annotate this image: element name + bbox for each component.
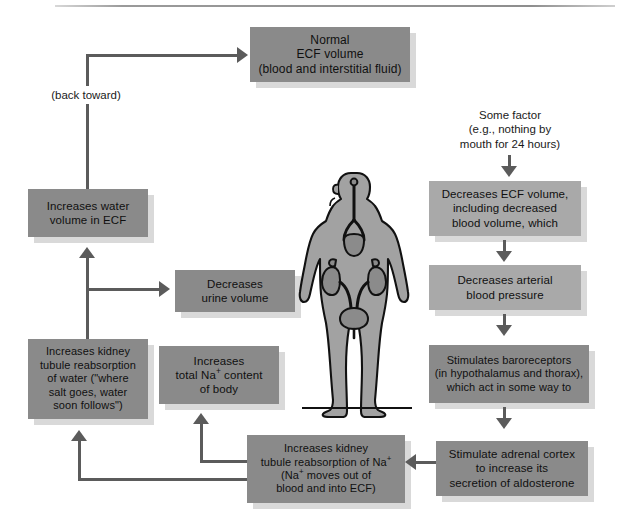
total-na-line-2: total Na+ content xyxy=(175,369,262,381)
node-increases-kidney-tubule-reabsorption-of-water[interactable]: Increases kidney tubule reabsorption of … xyxy=(28,339,148,419)
connector-branch-to-urine-volume xyxy=(86,288,160,291)
arrowhead-na-to-water-reabsorption xyxy=(71,430,87,441)
arrowhead-na-to-total-na xyxy=(193,413,209,424)
node-some-factor: Some factor (e.g., nothing by mouth for … xyxy=(430,108,590,151)
node-water-volume-in-ecf-label: Increases water volume in ECF xyxy=(33,199,143,227)
node-decreases-arterial-blood-pressure[interactable]: Decreases arterial blood pressure xyxy=(429,265,581,310)
node-na-reabsorption-label: Increases kidney tubule reabsorption of … xyxy=(252,442,400,496)
node-increases-total-na-content[interactable]: Increases total Na+ content of body xyxy=(159,346,279,404)
node-normal-ecf-volume[interactable]: Normal ECF volume (blood and interstitia… xyxy=(250,27,410,82)
arrowhead-factor-to-decreases-ecf xyxy=(501,166,517,177)
human-body-urinary-system-figure xyxy=(288,168,420,418)
node-stimulate-adrenal-cortex[interactable]: Stimulate adrenal cortex to increase its… xyxy=(436,441,588,496)
connector-na-to-total-na-horizontal xyxy=(200,460,250,463)
na-line-2: tubule reabsorption of Na+ xyxy=(261,456,392,468)
node-decreases-ecf-volume-label: Decreases ECF volume, including decrease… xyxy=(434,187,576,229)
node-water-reabsorption-label: Increases kidney tubule reabsorption of … xyxy=(33,345,143,412)
node-stimulates-baroreceptors-label: Stimulates baroreceptors (in hypothalamu… xyxy=(434,354,584,394)
node-total-na-label: Increases total Na+ content of body xyxy=(164,354,274,396)
connector-water-reabsorption-to-water-ecf xyxy=(86,258,89,340)
node-normal-ecf-volume-label: Normal ECF volume (blood and interstitia… xyxy=(255,33,405,77)
diagram-canvas: Normal ECF volume (blood and interstitia… xyxy=(0,0,622,522)
node-stimulates-baroreceptors[interactable]: Stimulates baroreceptors (in hypothalamu… xyxy=(429,345,589,403)
node-decreases-urine-volume[interactable]: Decreases urine volume xyxy=(175,270,295,312)
top-rule xyxy=(55,5,615,7)
arrowhead-water-reabsorption-to-water-ecf xyxy=(79,247,95,258)
arrowhead-decreases-ecf-to-bp xyxy=(496,251,512,262)
node-decreases-ecf-volume[interactable]: Decreases ECF volume, including decrease… xyxy=(429,181,581,236)
connector-na-to-total-na-vertical xyxy=(200,424,203,462)
label-back-toward: (back toward) xyxy=(26,86,146,104)
connector-na-to-water-reabsorption-horizontal xyxy=(78,478,250,481)
connector-water-ecf-to-normal-horizontal xyxy=(86,54,238,57)
connector-water-ecf-to-normal-vertical xyxy=(86,54,89,190)
node-stimulate-adrenal-cortex-label: Stimulate adrenal cortex to increase its… xyxy=(441,447,583,489)
arrowhead-branch-to-urine-volume xyxy=(159,281,170,297)
connector-na-to-water-reabsorption-vertical xyxy=(78,441,81,480)
connector-adrenal-to-na-reabsorption xyxy=(416,461,438,464)
na-line-3: (Na+ moves out of xyxy=(281,469,371,481)
node-increases-kidney-tubule-reabsorption-of-na[interactable]: Increases kidney tubule reabsorption of … xyxy=(247,435,405,503)
node-decreases-arterial-blood-pressure-label: Decreases arterial blood pressure xyxy=(434,273,576,301)
node-increases-water-volume-in-ecf[interactable]: Increases water volume in ECF xyxy=(28,189,148,237)
arrowhead-baroreceptors-to-adrenal xyxy=(496,418,512,429)
arrowhead-adrenal-to-na-reabsorption xyxy=(405,454,416,470)
arrowhead-water-ecf-to-normal xyxy=(237,47,248,63)
node-decreases-urine-volume-label: Decreases urine volume xyxy=(180,277,290,305)
arrowhead-bp-to-baroreceptors xyxy=(496,325,512,336)
